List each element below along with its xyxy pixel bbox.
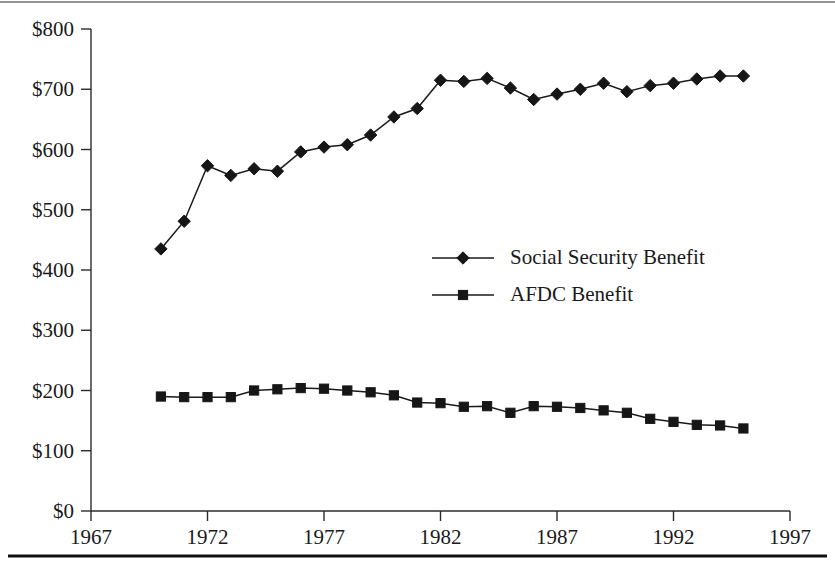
legend-item-afdc: AFDC Benefit [432, 282, 633, 306]
data-point-square [622, 408, 631, 417]
data-point-square [413, 398, 422, 407]
data-point-square [552, 402, 561, 411]
data-point-diamond [201, 160, 213, 172]
data-point-diamond [341, 138, 353, 150]
line-chart: $0$100$200$300$400$500$600$700$800 19671… [0, 0, 835, 568]
data-point-square [203, 393, 212, 402]
series-line [161, 76, 744, 249]
data-point-diamond [528, 93, 540, 105]
data-point-diamond [364, 129, 376, 141]
data-point-square [646, 414, 655, 423]
series-social-security [155, 70, 750, 255]
data-point-diamond [458, 75, 470, 87]
data-point-square [716, 421, 725, 430]
data-point-diamond [691, 73, 703, 85]
x-tick-label: 1992 [653, 525, 695, 549]
legend-label: AFDC Benefit [510, 282, 633, 306]
data-point-square [156, 392, 165, 401]
data-point-square [458, 290, 467, 299]
data-point-square [436, 399, 445, 408]
data-point-square [343, 386, 352, 395]
x-tick-labels: 1967197219771982198719921997 [70, 525, 811, 549]
y-axis: $0$100$200$300$400$500$600$700$800 [32, 17, 91, 523]
x-tick-marks [91, 511, 790, 521]
series-line [161, 388, 744, 428]
data-point-square [739, 424, 748, 433]
data-point-square [273, 385, 282, 394]
data-point-square [576, 403, 585, 412]
y-tick-label: $0 [53, 499, 74, 523]
data-point-diamond [457, 252, 469, 264]
data-point-square [226, 393, 235, 402]
x-tick-label: 1997 [769, 525, 811, 549]
series-afdc [156, 383, 748, 433]
data-point-square [180, 393, 189, 402]
data-point-diamond [318, 141, 330, 153]
chart-container: $0$100$200$300$400$500$600$700$800 19671… [0, 0, 835, 568]
data-point-diamond [737, 70, 749, 82]
data-point-square [296, 383, 305, 392]
y-tick-label: $800 [32, 17, 74, 41]
y-tick-label: $300 [32, 318, 74, 342]
data-point-square [389, 391, 398, 400]
y-tick-label: $100 [32, 439, 74, 463]
data-point-square [506, 408, 515, 417]
data-point-diamond [574, 83, 586, 95]
x-tick-label: 1972 [187, 525, 229, 549]
data-point-diamond [714, 70, 726, 82]
legend-label: Social Security Benefit [510, 245, 705, 269]
data-point-square [529, 402, 538, 411]
data-point-diamond [644, 79, 656, 91]
data-point-diamond [481, 72, 493, 84]
data-point-diamond [551, 88, 563, 100]
data-point-square [669, 417, 678, 426]
data-point-square [459, 402, 468, 411]
y-tick-label: $500 [32, 198, 74, 222]
data-point-square [599, 406, 608, 415]
data-point-diamond [248, 163, 260, 175]
x-tick-label: 1982 [420, 525, 462, 549]
x-axis: 1967197219771982198719921997 [70, 511, 811, 549]
data-point-square [366, 388, 375, 397]
data-point-diamond [621, 85, 633, 97]
data-point-diamond [504, 82, 516, 94]
data-point-diamond [225, 169, 237, 181]
x-tick-label: 1977 [303, 525, 345, 549]
data-point-square [483, 402, 492, 411]
y-tick-label: $400 [32, 258, 74, 282]
data-point-square [250, 386, 259, 395]
x-tick-label: 1987 [536, 525, 578, 549]
data-point-square [692, 420, 701, 429]
x-tick-label: 1967 [70, 525, 112, 549]
y-tick-labels: $0$100$200$300$400$500$600$700$800 [32, 17, 74, 523]
data-point-diamond [667, 77, 679, 89]
data-point-diamond [388, 111, 400, 123]
data-point-diamond [597, 77, 609, 89]
y-tick-label: $700 [32, 77, 74, 101]
y-tick-label: $200 [32, 379, 74, 403]
data-point-square [319, 384, 328, 393]
chart-legend: Social Security BenefitAFDC Benefit [432, 245, 705, 306]
y-tick-label: $600 [32, 138, 74, 162]
y-tick-marks [81, 29, 91, 511]
legend-item-social-security: Social Security Benefit [432, 245, 705, 269]
